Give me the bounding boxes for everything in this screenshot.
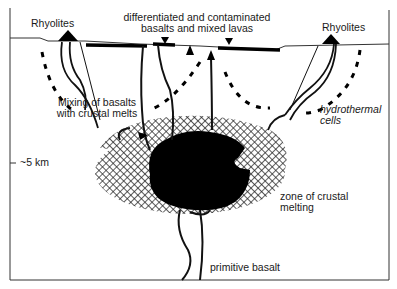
label-crustal-melting-zone: zone of crustal melting <box>280 191 348 213</box>
label-line: melting <box>280 202 348 213</box>
label-line: cells <box>320 115 381 126</box>
arrow-up-icon <box>207 50 215 60</box>
label-line: basalts and mixed lavas <box>122 23 272 34</box>
label-primitive-basalt: primitive basalt <box>210 262 280 273</box>
rhyolite-dome-left <box>58 30 78 41</box>
magma-chamber <box>149 131 250 210</box>
label-line: with crustal melts <box>42 108 152 119</box>
lava-flows <box>86 44 280 50</box>
label-differentiated-lavas: differentiated and contaminated basalts … <box>122 12 272 34</box>
diagram-canvas <box>0 0 397 289</box>
label-depth: ~5 km <box>20 157 49 168</box>
arrow-down-icon <box>225 38 233 45</box>
label-rhyolites-left: Rhyolites <box>31 18 74 29</box>
rhyolite-dome-right <box>322 34 340 44</box>
label-hydrothermal-cells: hydrothermal cells <box>320 104 381 126</box>
arrow-up-icon <box>186 45 194 55</box>
volcanic-system-diagram: Rhyolites Rhyolites differentiated and c… <box>0 0 397 289</box>
label-mixing: Mixing of basalts with crustal melts <box>42 97 152 119</box>
label-rhyolites-right: Rhyolites <box>322 22 365 33</box>
